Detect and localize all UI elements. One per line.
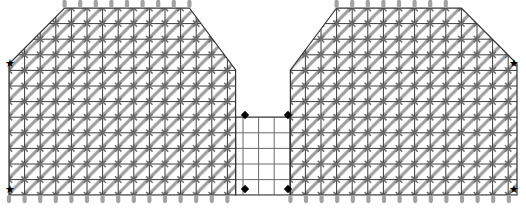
mesh-figure: ★★★★ [0, 0, 526, 213]
mesh-canvas: ★★★★ [0, 0, 526, 213]
star-top-right: ★ [509, 57, 519, 69]
star-bottom-left: ★ [5, 183, 15, 195]
star-bottom-right: ★ [509, 183, 519, 195]
star-top-left: ★ [5, 57, 15, 69]
notch-interior [236, 117, 291, 195]
